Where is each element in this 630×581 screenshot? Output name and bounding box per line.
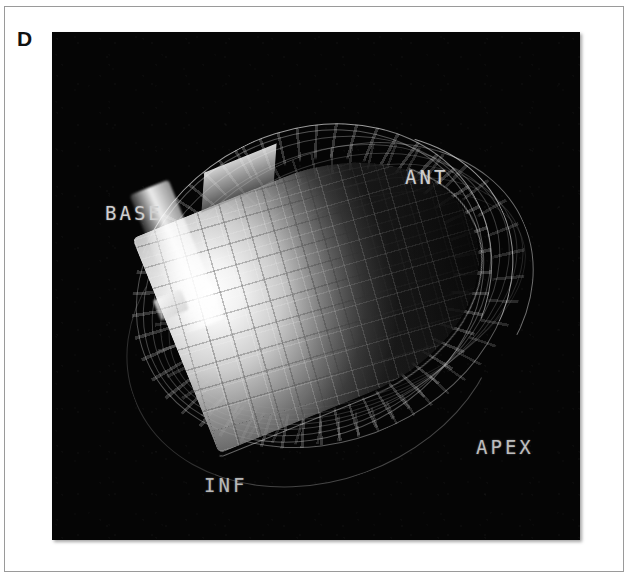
cardiac-model-stage <box>52 32 580 540</box>
figure-root: D <box>0 0 630 581</box>
orientation-label-apex: APEX <box>476 438 534 457</box>
orientation-label-base: BASE <box>105 204 163 223</box>
panel-letter: D <box>17 28 33 49</box>
orientation-label-anterior: ANT <box>405 168 448 187</box>
render-panel[interactable]: BASE ANT INF APEX <box>52 32 580 540</box>
orientation-label-inferior: INF <box>204 476 247 495</box>
